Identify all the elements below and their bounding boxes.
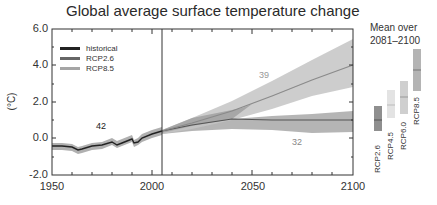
mean-title-line1: Mean over [370,21,420,34]
legend-swatch [60,47,80,50]
legend-label: RCP8.5 [86,64,114,73]
bar-rcp26 [374,106,382,131]
historical-model-count: 42 [96,121,106,131]
mean-panel-title: Mean over 2081–2100 [370,21,420,47]
bar-rcp45 [387,90,395,118]
legend-label: historical [86,44,118,53]
rcp85-model-count: 39 [259,70,269,80]
mean-title-line2: 2081–2100 [370,34,420,47]
bar-label-rcp45: RCP4.5 [386,132,395,160]
legend-swatch [60,57,80,60]
rcp26-model-count: 32 [292,137,302,147]
legend-label: RCP2.6 [86,54,114,63]
bar-label-rcp26: RCP2.6 [373,145,382,173]
bar-label-rcp60: RCP6.0 [399,122,408,150]
legend-swatch [60,67,80,70]
legend-historical: historical [60,43,118,53]
legend: historical RCP2.6 RCP8.5 [60,43,118,73]
legend-rcp85: RCP8.5 [60,63,118,73]
historical-uncertainty-band [52,127,162,154]
legend-rcp26: RCP2.6 [60,53,118,63]
bar-label-rcp85: RCP8.5 [412,97,421,125]
